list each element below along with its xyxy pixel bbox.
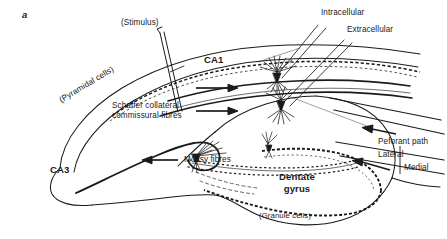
perforant-fibre-lateral-2 — [334, 110, 444, 134]
panel-letter: a — [22, 10, 27, 21]
lateral-label: Lateral — [378, 150, 404, 159]
arrow-right-schaffer-upper — [196, 84, 238, 92]
hippocampus-drawing — [0, 0, 447, 239]
intracellular-label: Intracellular — [321, 8, 364, 17]
medial-label: Medial — [404, 163, 429, 172]
commissural-fibres-label: commissural fibres — [112, 111, 182, 120]
extracellular-label: Extracellular — [347, 25, 393, 34]
perforant-fibre-lateral-1 — [330, 98, 441, 120]
outline-right-tail — [392, 178, 440, 187]
perforant-path-label: Peforant path — [378, 137, 428, 146]
outline-underside-right — [316, 96, 356, 105]
dentate-granule-neuron — [262, 132, 277, 158]
ca1-pyramidal-neuron-lower — [266, 86, 294, 124]
stimulating-electrode-icon — [157, 27, 184, 112]
ca1-label: CA1 — [204, 55, 223, 66]
arrow-left-mossy — [142, 156, 178, 164]
hippocampus-circuit-figure: a (Stimulus) Intracellular Extracellular… — [0, 0, 447, 239]
granule-cells-label: (Granule cells) — [259, 212, 311, 221]
outline-bottom-left — [92, 195, 215, 205]
dentate-label-line1: Dentate — [268, 172, 326, 183]
schaffer-collateral-label: Schaffer collateral — [112, 101, 179, 110]
mossy-fibres-label: Mossy fibres — [184, 155, 231, 164]
ca3-label: CA3 — [50, 165, 69, 176]
arrow-right-schaffer-lower — [196, 107, 238, 115]
dentate-label-line2: gyrus — [268, 184, 326, 195]
ca3-pyramidal-layer — [76, 143, 194, 193]
stimulus-label: (Stimulus) — [121, 18, 159, 27]
